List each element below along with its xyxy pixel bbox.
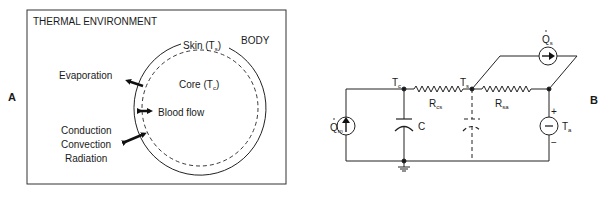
convection-label: Convection: [61, 139, 111, 150]
resistor-rsa-icon: [472, 86, 549, 92]
plus-sign: +: [551, 106, 557, 117]
ts-label: Ts: [460, 77, 469, 89]
c-label: C: [418, 121, 425, 132]
panel-b-letter: B: [590, 94, 598, 106]
evaporation-arrow-icon: [128, 81, 143, 86]
radiation-label: Radiation: [65, 153, 107, 164]
conduction-label: Conduction: [61, 125, 112, 136]
tc-label: Tc: [392, 77, 401, 89]
figure: A THERMAL ENVIRONMENT BODY Skin (Ts) Cor…: [0, 0, 613, 201]
body-label: BODY: [241, 35, 270, 46]
minus-sign: −: [551, 137, 557, 148]
ta-label: Ta: [562, 121, 572, 133]
blood-flow-label: Blood flow: [158, 107, 205, 118]
panel-a-letter: A: [8, 91, 16, 103]
evaporation-label: Evaporation: [59, 70, 112, 81]
wire: [472, 56, 500, 89]
thermal-environment-label: THERMAL ENVIRONMENT: [33, 16, 157, 27]
rcs-label: Rcs: [429, 98, 442, 110]
rsa-label: Rsa: [495, 98, 509, 110]
core-label: Core (Tc): [179, 79, 219, 91]
qs-label: Qs: [542, 34, 553, 46]
panel-a: A THERMAL ENVIRONMENT BODY Skin (Ts) Cor…: [8, 10, 286, 184]
skin-label: Skin (Ts): [183, 40, 221, 52]
panel-b: [337, 47, 577, 171]
